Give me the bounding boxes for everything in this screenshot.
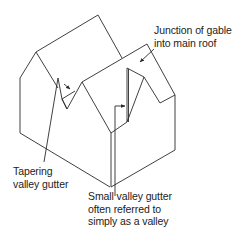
tapering-leader bbox=[44, 78, 58, 162]
tapering-valley-gutter bbox=[58, 78, 111, 133]
small-valley-label-line-2: often referred to bbox=[88, 203, 172, 216]
small-valley-label: Small valley gutter often referred to si… bbox=[88, 190, 172, 228]
tapering-label: Tapering valley gutter bbox=[13, 165, 68, 190]
junction-arrow bbox=[140, 49, 154, 62]
junction-label: Junction of gable into main roof bbox=[154, 24, 232, 49]
small-valley-leader bbox=[115, 106, 125, 196]
tapering-label-line-2: valley gutter bbox=[13, 178, 68, 191]
small-valley-label-line-3: simply as a valley bbox=[88, 215, 172, 228]
tapering-label-line-1: Tapering bbox=[13, 165, 68, 178]
front-gable bbox=[111, 68, 175, 187]
small-valley-label-line-1: Small valley gutter bbox=[88, 190, 172, 203]
junction-label-line-1: Junction of gable bbox=[154, 24, 232, 37]
junction-label-line-2: into main roof bbox=[154, 37, 232, 50]
tapering-arrow bbox=[64, 84, 70, 89]
